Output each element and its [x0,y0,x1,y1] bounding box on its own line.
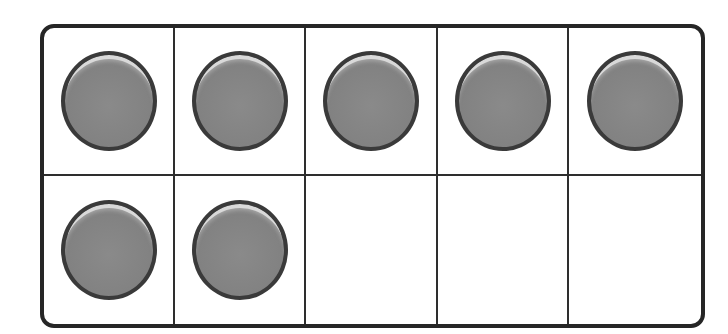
frame-cell [438,176,569,324]
counter-circle-icon [192,200,288,300]
frame-cell [306,28,438,176]
frame-cell [306,176,438,324]
counter-circle-icon [323,51,419,151]
frame-cell [175,176,306,324]
frame-cell [44,28,175,176]
counter-circle-icon [192,51,288,151]
frame-cell [44,176,175,324]
frame-cell [569,28,701,176]
counter-circle-icon [61,51,157,151]
counter-circle-icon [587,51,683,151]
ten-frame [40,24,705,328]
frame-cell [438,28,569,176]
counter-circle-icon [455,51,551,151]
frame-cell [569,176,701,324]
counter-circle-icon [61,200,157,300]
frame-cell [175,28,306,176]
